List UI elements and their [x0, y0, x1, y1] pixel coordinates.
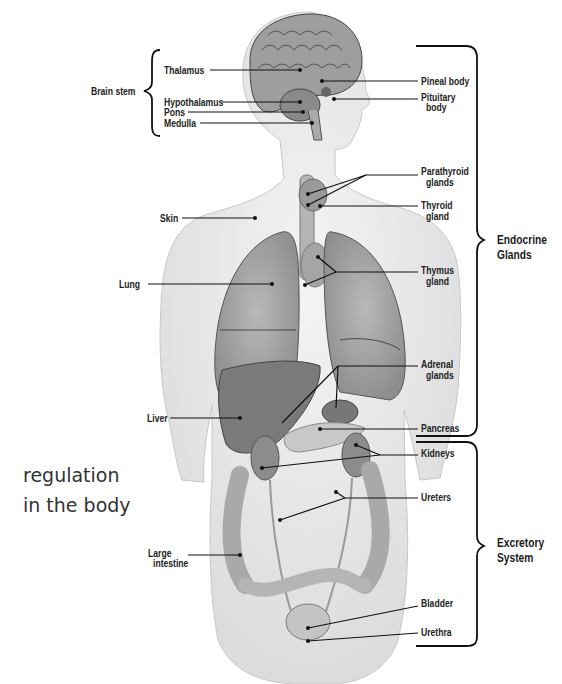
label-brain-stem: Brain stem [91, 86, 136, 97]
label-medulla: Medulla [164, 118, 196, 129]
label-kidneys: Kidneys [421, 448, 455, 459]
caption-line1: regulation [23, 460, 120, 490]
caption-line2: in the body [23, 490, 131, 520]
label-pineal-body: Pineal body [421, 76, 469, 87]
label-thalamus: Thalamus [164, 65, 204, 76]
label-skin: Skin [160, 213, 178, 224]
label-liver: Liver [147, 413, 168, 424]
label-pituitary-2: body [426, 102, 447, 113]
label-pancreas: Pancreas [421, 423, 459, 434]
bladder [286, 604, 330, 640]
label-thyroid-2: gland [426, 211, 449, 222]
group-endocrine-glands: Endocrine Glands [497, 233, 547, 263]
group-excretory-line1: Excretory [497, 536, 544, 551]
group-excretory-line2: System [497, 551, 544, 566]
label-urethra: Urethra [421, 627, 452, 638]
anatomy-illustration [0, 0, 562, 684]
group-endocrine-line2: Glands [497, 248, 547, 263]
group-excretory-system: Excretory System [497, 536, 544, 566]
label-lung: Lung [119, 279, 140, 290]
label-adrenal-2: glands [426, 370, 454, 381]
label-parathyroid-2: glands [426, 177, 454, 188]
label-thymus-2: gland [426, 276, 449, 287]
label-ureters: Ureters [421, 492, 451, 503]
label-bladder: Bladder [421, 598, 453, 609]
group-endocrine-line1: Endocrine [497, 233, 547, 248]
label-large-intestine-2: intestine [153, 558, 188, 569]
